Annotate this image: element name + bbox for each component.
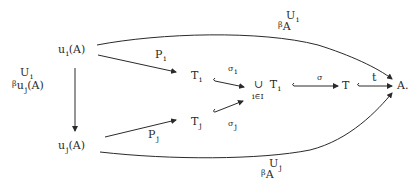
label-p-i: Pi [155, 49, 166, 60]
vert-beta: β [12, 79, 17, 88]
uj-arg: (A) [69, 139, 86, 152]
vert-base: u [17, 79, 24, 92]
sigma-j-base: σ [228, 119, 233, 128]
label-sigma-i: σi [228, 62, 237, 73]
label-vertical: Ui βuj(A) [20, 67, 44, 91]
ui-arg: (A) [69, 43, 86, 56]
sigma-i-base: σ [228, 64, 233, 73]
label-sigma: σ [317, 74, 322, 82]
label-sigma-j: σj [228, 117, 237, 128]
ti-sub: i [199, 75, 202, 84]
tj-base: T [191, 115, 198, 128]
label-top-arc: Ui βA [278, 10, 299, 32]
node-T: T [342, 80, 349, 91]
bottom-arc [100, 93, 392, 158]
top-arc-beta: β [278, 20, 283, 29]
label-p-j: Pj [148, 129, 159, 140]
t-node-base: T [342, 79, 349, 92]
sigma-i-sub: i [234, 67, 237, 76]
pj-base: P [148, 128, 155, 141]
union-base: T [270, 78, 277, 91]
node-union: ∪ Ti [254, 79, 281, 90]
ti-base: T [191, 69, 198, 82]
arrow-sigma-i [214, 78, 245, 87]
top-arc-base: A [283, 20, 291, 33]
union-index: i∈I [252, 93, 264, 101]
pj-sub: j [156, 134, 158, 143]
tj-sub: j [199, 121, 201, 130]
arrow-sigma-j [214, 101, 244, 112]
union-symbol: ∪ [254, 78, 263, 91]
node-uj-A: uj(A) [58, 140, 85, 151]
bottom-arc-base: A [266, 168, 274, 181]
vert-top-sub: i [30, 72, 33, 81]
union-sub: i [278, 84, 281, 93]
node-T-j: Tj [191, 116, 202, 127]
arrow-p-j [105, 120, 176, 137]
uj-base: u [58, 139, 65, 152]
node-T-i: Ti [191, 70, 202, 81]
label-t: t [372, 72, 376, 83]
ui-base: u [58, 43, 65, 56]
node-ui-A: ui(A) [58, 44, 85, 55]
pi-base: P [155, 48, 162, 61]
node-A: A. [397, 80, 408, 91]
a-node-base: A. [397, 79, 408, 92]
ui-sub: i [66, 49, 69, 58]
diagram-edges [0, 0, 419, 191]
arrow-sigma [293, 83, 339, 86]
top-arc-top-sub: i [296, 15, 299, 24]
vert-base-sub: j [25, 85, 27, 94]
sigma-j-sub: j [234, 122, 236, 131]
label-bottom-arc: Uj βA [261, 158, 282, 180]
uj-sub: j [66, 145, 68, 154]
bottom-arc-top-sub: j [279, 163, 281, 172]
bottom-arc-beta: β [261, 168, 266, 177]
top-arc [97, 35, 392, 79]
pi-sub: i [163, 54, 166, 63]
vert-top: U [20, 66, 29, 79]
